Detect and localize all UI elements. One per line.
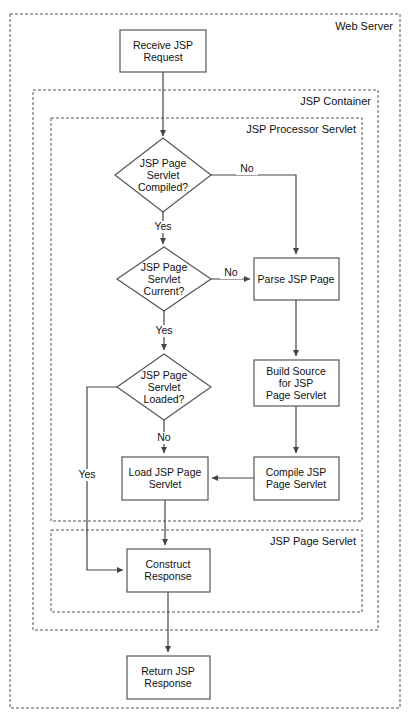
- node-receive-jsp-request: Receive JSPRequest: [120, 30, 206, 72]
- node-jsp-page-servlet-current: JSP PageServletCurrent?: [117, 247, 211, 311]
- node-label-jsp-page-servlet-current: Servlet: [148, 273, 181, 285]
- node-compile-jsp-page-servlet: Compile JSPPage Servlet: [254, 457, 339, 500]
- node-jsp-page-servlet-compiled: JSP PageServletCompiled?: [115, 138, 211, 212]
- edge-path-compiled-no-to-parse: [211, 175, 296, 254]
- edge-label-current-no-to-parse: No: [224, 266, 238, 278]
- edge-compiled-no-to-parse: No: [211, 162, 296, 254]
- container-label-jsp-page-servlet: JSP Page Servlet: [270, 535, 356, 547]
- node-label-parse-jsp-page: Parse JSP Page: [258, 273, 335, 285]
- edge-compiled-yes-to-current: Yes: [152, 212, 174, 244]
- node-return-jsp-response: Return JSPResponse: [127, 656, 210, 699]
- node-label-construct-response: Construct: [146, 558, 191, 570]
- flowchart-diagram: Web ServerJSP ContainerJSP Processor Ser…: [0, 0, 411, 718]
- edge-loaded-no-to-load: No: [153, 420, 175, 453]
- node-label-load-jsp-page-servlet: Servlet: [149, 478, 182, 490]
- node-label-jsp-page-servlet-loaded: Servlet: [148, 381, 181, 393]
- edge-current-yes-to-loaded: Yes: [153, 311, 175, 350]
- node-label-build-source-for-jsp-page-servlet: Page Servlet: [266, 389, 326, 401]
- container-label-jsp-container: JSP Container: [300, 95, 371, 107]
- node-label-load-jsp-page-servlet: Load JSP Page: [129, 466, 202, 478]
- node-build-source-for-jsp-page-servlet: Build Sourcefor JSPPage Servlet: [254, 360, 339, 406]
- node-label-receive-jsp-request: Receive JSP: [133, 39, 193, 51]
- node-label-jsp-page-servlet-compiled: JSP Page: [140, 157, 187, 169]
- edge-label-loaded-no-to-load: No: [157, 431, 171, 443]
- node-label-build-source-for-jsp-page-servlet: Build Source: [266, 365, 326, 377]
- node-label-build-source-for-jsp-page-servlet: for JSP: [279, 377, 313, 389]
- edge-label-compiled-yes-to-current: Yes: [154, 220, 171, 232]
- node-label-compile-jsp-page-servlet: Page Servlet: [266, 478, 326, 490]
- node-label-jsp-page-servlet-current: Current?: [144, 285, 185, 297]
- node-label-jsp-page-servlet-compiled: Servlet: [147, 169, 180, 181]
- containers-layer: Web ServerJSP ContainerJSP Processor Ser…: [10, 14, 400, 708]
- edge-label-loaded-yes-to-construct: Yes: [78, 468, 95, 480]
- node-construct-response: ConstructResponse: [127, 549, 210, 592]
- node-label-jsp-page-servlet-loaded: Loaded?: [144, 393, 185, 405]
- node-label-jsp-page-servlet-current: JSP Page: [141, 261, 188, 273]
- flowchart-canvas: Web ServerJSP ContainerJSP Processor Ser…: [0, 0, 411, 718]
- node-label-compile-jsp-page-servlet: Compile JSP: [266, 466, 327, 478]
- container-label-web-server: Web Server: [335, 20, 393, 32]
- node-label-return-jsp-response: Response: [144, 677, 191, 689]
- node-label-jsp-page-servlet-loaded: JSP Page: [141, 369, 188, 381]
- node-jsp-page-servlet-loaded: JSP PageServletLoaded?: [117, 354, 211, 420]
- node-label-return-jsp-response: Return JSP: [141, 665, 195, 677]
- edge-loaded-yes-to-construct: Yes: [76, 387, 123, 570]
- node-label-construct-response: Response: [144, 570, 191, 582]
- node-load-jsp-page-servlet: Load JSP PageServlet: [122, 457, 208, 500]
- edge-label-current-yes-to-loaded: Yes: [155, 324, 172, 336]
- edge-current-no-to-parse: No: [211, 266, 250, 279]
- edge-label-compiled-no-to-parse: No: [240, 162, 254, 174]
- node-label-receive-jsp-request: Request: [143, 51, 182, 63]
- node-label-jsp-page-servlet-compiled: Compiled?: [138, 181, 188, 193]
- container-label-jsp-processor-servlet: JSP Processor Servlet: [246, 123, 356, 135]
- node-parse-jsp-page: Parse JSP Page: [254, 258, 339, 300]
